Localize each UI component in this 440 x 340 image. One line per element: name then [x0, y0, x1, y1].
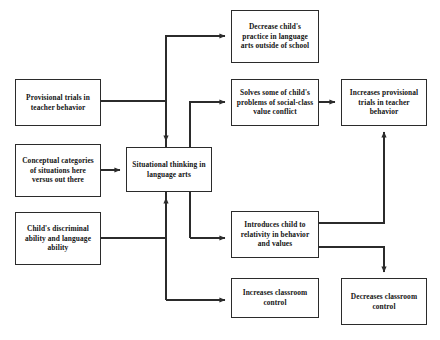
- node-decrease-practice-label: Decrease child's practice in language ar…: [235, 22, 315, 51]
- node-introduces-child-label: Introduces child to relativity in behavi…: [235, 220, 315, 249]
- node-introduces-child: Introduces child to relativity in behavi…: [231, 211, 319, 258]
- node-conceptual-categories: Conceptual categories of situations here…: [15, 144, 101, 197]
- edge-provisional-to-situational: [101, 101, 166, 141]
- node-decrease-practice: Decrease child's practice in language ar…: [231, 10, 319, 63]
- node-increases-trials: Increases provisional trials in teacher …: [341, 79, 427, 126]
- node-increases-control: Increases classroom control: [231, 278, 319, 318]
- node-increases-trials-label: Increases provisional trials in teacher …: [345, 88, 423, 117]
- edge-introduces-to-increases-trials: [319, 132, 384, 223]
- edge-ability-to-situational: [101, 198, 166, 238]
- node-childs-ability: Child's discriminal ability and language…: [15, 212, 101, 265]
- node-childs-ability-label: Child's discriminal ability and language…: [19, 224, 97, 253]
- edge-introduces-to-decreases-control: [319, 247, 384, 272]
- node-provisional-trials: Provisional trials in teacher behavior: [15, 79, 101, 126]
- node-situational-thinking: Situational thinking in language arts: [126, 147, 212, 192]
- node-decreases-control: Decreases classroom control: [341, 278, 427, 325]
- node-situational-thinking-label: Situational thinking in language arts: [130, 160, 208, 180]
- node-provisional-trials-label: Provisional trials in teacher behavior: [19, 93, 97, 113]
- node-solves-problems-label: Solves some of child's problems of socia…: [235, 88, 315, 117]
- node-solves-problems: Solves some of child's problems of socia…: [231, 79, 319, 126]
- node-increases-control-label: Increases classroom control: [235, 288, 315, 308]
- node-conceptual-categories-label: Conceptual categories of situations here…: [19, 156, 97, 185]
- flow-diagram: Decrease child's practice in language ar…: [0, 0, 440, 340]
- node-decreases-control-label: Decreases classroom control: [345, 292, 423, 312]
